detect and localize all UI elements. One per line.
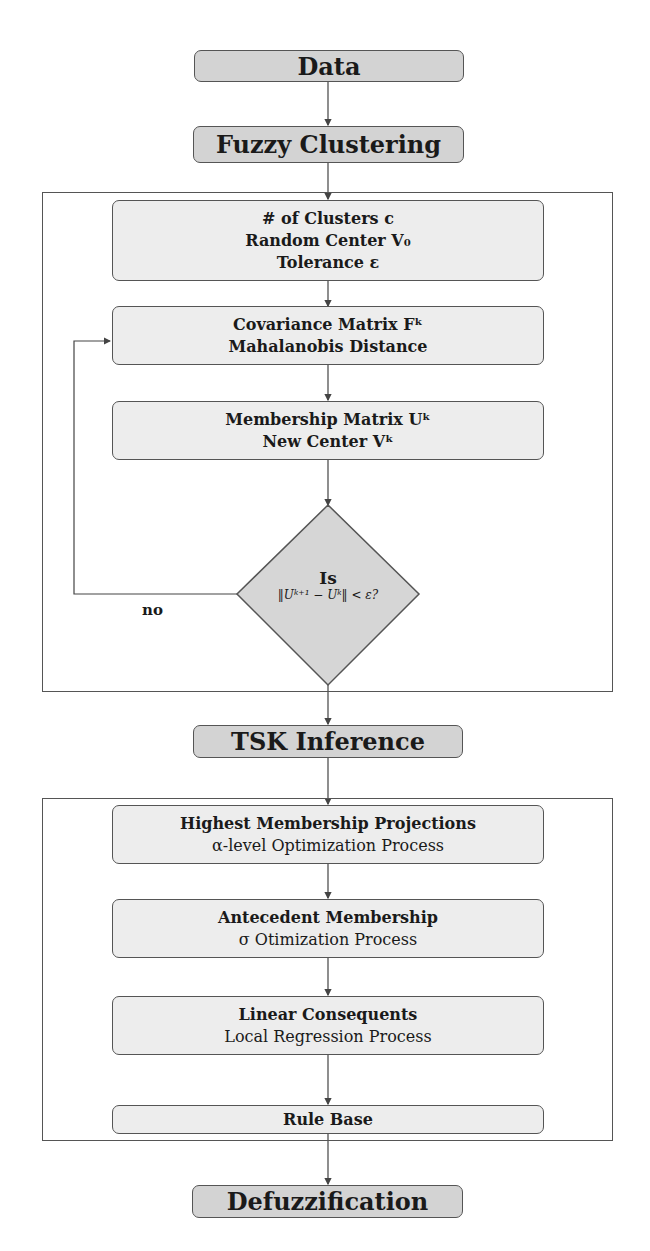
linear-line1: Linear Consequents (239, 1004, 418, 1026)
decision-line1: Is (238, 568, 418, 588)
covariance-node: Covariance Matrix Fᵏ Mahalanobis Distanc… (112, 306, 544, 365)
antecedent-line2: σ Otimization Process (239, 929, 417, 951)
highest-membership-node: Highest Membership Projections α-level O… (112, 805, 544, 864)
antecedent-line1: Antecedent Membership (218, 907, 438, 929)
highest-line1: Highest Membership Projections (180, 813, 476, 835)
fuzzy-clustering-node: Fuzzy Clustering (193, 126, 464, 163)
data-node: Data (194, 50, 464, 82)
tsk-inference-node: TSK Inference (193, 725, 463, 758)
highest-line2: α-level Optimization Process (212, 835, 444, 857)
tsk-inference-label: TSK Inference (231, 727, 425, 756)
decision-text: Is ‖Uᵏ⁺¹ − Uᵏ‖ < ε? (238, 568, 418, 602)
rule-base-node: Rule Base (112, 1105, 544, 1134)
init-line1: # of Clusters c (262, 208, 394, 230)
init-node: # of Clusters c Random Center V₀ Toleran… (112, 200, 544, 281)
covariance-line1: Covariance Matrix Fᵏ (233, 314, 423, 336)
defuzzification-node: Defuzzification (192, 1185, 463, 1218)
linear-consequents-node: Linear Consequents Local Regression Proc… (112, 996, 544, 1055)
defuzzification-label: Defuzzification (227, 1187, 429, 1216)
init-line3: Tolerance ε (277, 252, 380, 274)
membership-line2: New Center Vᵏ (262, 431, 393, 453)
membership-line1: Membership Matrix Uᵏ (225, 409, 431, 431)
linear-line2: Local Regression Process (224, 1026, 431, 1048)
init-line2: Random Center V₀ (245, 230, 411, 252)
membership-node: Membership Matrix Uᵏ New Center Vᵏ (112, 401, 544, 460)
rule-base-label: Rule Base (283, 1109, 373, 1131)
data-label: Data (298, 52, 361, 81)
covariance-line2: Mahalanobis Distance (229, 336, 428, 358)
no-edge-label: no (142, 601, 163, 619)
antecedent-membership-node: Antecedent Membership σ Otimization Proc… (112, 899, 544, 958)
decision-line2: ‖Uᵏ⁺¹ − Uᵏ‖ < ε? (238, 588, 418, 602)
fuzzy-clustering-label: Fuzzy Clustering (216, 130, 441, 159)
